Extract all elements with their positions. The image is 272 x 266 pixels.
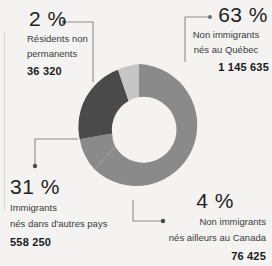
value-label-canada: 76 425 — [140, 250, 268, 262]
callout-canada[interactable]: 4 % Non immigrants nés ailleurs au Canad… — [140, 190, 268, 262]
percent-label-non-permanent: 2 % — [29, 8, 88, 30]
value-label-other-countries: 558 250 — [10, 236, 107, 248]
percent-label-canada: 4 % — [140, 190, 268, 212]
value-label-quebec: 1 145 635 — [180, 61, 272, 73]
description-non-permanent-line2: permanents — [27, 48, 88, 60]
description-other-countries-line2: nés dans d'autres pays — [10, 218, 107, 230]
percent-label-other-countries: 31 % — [10, 176, 107, 198]
callout-quebec[interactable]: 63 % Non immigrants nés au Québec 1 145 … — [180, 4, 272, 73]
description-canada-line2: nés ailleurs au Canada — [140, 232, 268, 244]
leader-line-other-countries — [33, 139, 78, 168]
description-quebec-line1: Non immigrants — [180, 29, 272, 41]
chart-page: 2 % Résidents non permanents 36 320 63 %… — [0, 0, 272, 266]
donut-slice-other-countries[interactable] — [78, 70, 128, 140]
percent-label-quebec: 63 % — [180, 4, 272, 26]
description-quebec-line2: nés au Québec — [180, 44, 272, 56]
description-other-countries-line1: Immigrants — [10, 202, 107, 214]
description-non-permanent-line1: Résidents non — [27, 33, 88, 45]
value-label-non-permanent: 36 320 — [27, 65, 88, 77]
callout-other-countries[interactable]: 31 % Immigrants nés dans d'autres pays 5… — [10, 176, 107, 248]
callout-non-permanent[interactable]: 2 % Résidents non permanents 36 320 — [27, 8, 88, 77]
description-canada-line1: Non immigrants — [140, 216, 268, 228]
